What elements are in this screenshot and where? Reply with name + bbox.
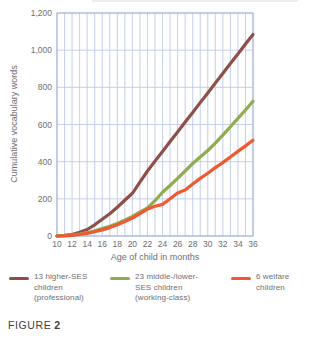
figure-caption: FIGURE2 — [8, 319, 61, 331]
svg-text:1,200: 1,200 — [31, 8, 53, 18]
figure-caption-prefix: FIGURE — [8, 319, 51, 331]
legend-item-higher-ses: 13 higher-SES children (professional) — [9, 272, 109, 304]
svg-text:32: 32 — [218, 239, 228, 249]
svg-text:34: 34 — [233, 239, 243, 249]
legend-label-welfare: 6 welfare children — [256, 272, 289, 293]
svg-text:26: 26 — [173, 239, 183, 249]
svg-text:20: 20 — [128, 239, 138, 249]
y-axis-title: Cumulative vocabulary words — [9, 65, 19, 183]
svg-text:24: 24 — [158, 239, 168, 249]
chart-legend: 13 higher-SES children (professional) 23… — [0, 272, 309, 322]
svg-text:30: 30 — [203, 239, 213, 249]
legend-item-middle-ses: 23 middle-/lower- SES children (working-… — [110, 272, 230, 304]
svg-text:800: 800 — [38, 82, 52, 92]
svg-text:18: 18 — [113, 239, 123, 249]
svg-text:200: 200 — [38, 194, 52, 204]
svg-text:22: 22 — [143, 239, 153, 249]
svg-text:400: 400 — [38, 157, 52, 167]
figure-caption-number: 2 — [54, 319, 60, 331]
svg-text:16: 16 — [97, 239, 107, 249]
svg-text:600: 600 — [38, 120, 52, 130]
svg-text:14: 14 — [82, 239, 92, 249]
svg-text:12: 12 — [67, 239, 77, 249]
middle-ses-line-swatch — [110, 277, 130, 280]
legend-item-welfare: 6 welfare children — [231, 272, 289, 293]
svg-text:36: 36 — [248, 239, 258, 249]
higher-ses-line-swatch — [9, 277, 29, 280]
figure-chart: 02004006008001,0001,20010121416182022242… — [0, 2, 309, 264]
welfare-line-swatch — [231, 277, 251, 280]
legend-label-higher-ses: 13 higher-SES children (professional) — [34, 272, 87, 304]
vocabulary-growth-chart-svg: 02004006008001,0001,20010121416182022242… — [0, 2, 309, 264]
x-axis-title: Age of child in months — [111, 252, 200, 262]
svg-text:28: 28 — [188, 239, 198, 249]
svg-text:10: 10 — [52, 239, 62, 249]
legend-label-middle-ses: 23 middle-/lower- SES children (working-… — [135, 272, 198, 304]
svg-text:1,000: 1,000 — [31, 45, 53, 55]
